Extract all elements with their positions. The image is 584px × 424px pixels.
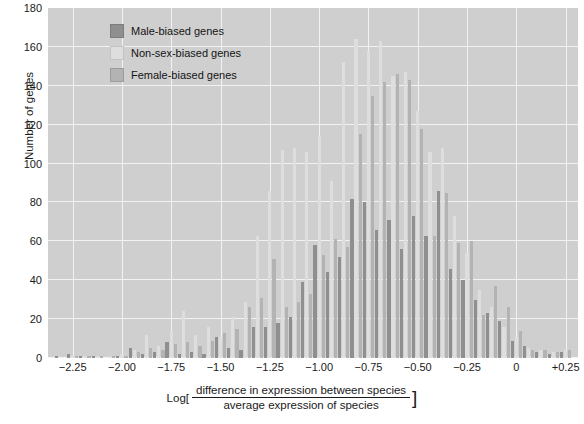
y-axis-tick-label: 80: [30, 197, 42, 208]
x-axis-title-denominator: average expression of species: [219, 398, 382, 411]
x-axis-title-suffix: ]: [412, 388, 417, 407]
bar: [202, 354, 205, 358]
bar: [239, 350, 242, 358]
bar: [543, 350, 546, 358]
bar: [457, 243, 460, 358]
bar: [252, 327, 255, 358]
bar: [297, 302, 300, 358]
bar: [165, 342, 168, 358]
bar: [149, 348, 152, 358]
bar: [129, 348, 132, 358]
bar: [289, 317, 292, 358]
bar: [83, 356, 86, 358]
bar: [461, 280, 464, 358]
bar: [276, 323, 279, 358]
bar: [465, 253, 468, 358]
bar: [379, 41, 382, 358]
bar: [511, 341, 514, 359]
bar: [474, 300, 477, 358]
x-axis-tick-label: −1.25: [256, 362, 284, 373]
plot-area: Male-biased genesNon-sex-biased genesFem…: [48, 8, 578, 358]
bar: [112, 356, 115, 358]
legend-item: Non-sex-biased genes: [110, 46, 241, 60]
bar: [227, 348, 230, 358]
bar: [182, 311, 185, 358]
bar: [391, 76, 394, 358]
y-axis-tick-label: 40: [30, 275, 42, 286]
bar: [502, 327, 505, 358]
x-axis-title-fraction: difference in expression between species…: [190, 384, 412, 411]
bar: [71, 356, 74, 358]
bar: [268, 191, 271, 358]
bar: [100, 356, 103, 358]
bar: [285, 307, 288, 358]
bar: [346, 247, 349, 358]
bar: [441, 148, 444, 358]
bar: [375, 230, 378, 358]
bar: [408, 80, 411, 358]
bar: [116, 356, 119, 358]
legend: Male-biased genesNon-sex-biased genesFem…: [110, 24, 241, 82]
bar: [161, 350, 164, 358]
legend-label: Female-biased genes: [131, 69, 237, 81]
legend-item: Male-biased genes: [110, 24, 241, 38]
bar: [494, 286, 497, 358]
bar: [416, 111, 419, 358]
bar: [359, 134, 362, 358]
bar: [153, 352, 156, 358]
bar: [527, 348, 530, 358]
bar: [326, 272, 329, 358]
bar: [133, 350, 136, 358]
bar: [55, 356, 58, 358]
bar: [309, 294, 312, 358]
bar: [330, 181, 333, 358]
bar: [400, 249, 403, 358]
bar: [539, 350, 542, 358]
bar: [92, 356, 95, 358]
bar: [272, 259, 275, 358]
bar: [198, 346, 201, 358]
bar: [264, 327, 267, 358]
bar: [75, 356, 78, 358]
x-axis-title: Log[ difference in expression between sp…: [0, 384, 584, 411]
bar: [560, 352, 563, 358]
bar: [482, 315, 485, 358]
bar: [301, 282, 304, 358]
bar: [367, 51, 370, 358]
y-axis-ticks: 020406080100120140160180: [0, 0, 48, 366]
x-axis-tick-label: +0.25: [552, 362, 580, 373]
bar: [313, 245, 316, 358]
bar: [145, 335, 148, 358]
x-axis-title-prefix: Log[: [167, 392, 190, 404]
bar: [248, 307, 251, 358]
x-axis-title-numerator: difference in expression between species: [192, 384, 410, 397]
y-axis-tick-label: 60: [30, 236, 42, 247]
bar: [507, 307, 510, 358]
bar: [281, 150, 284, 358]
legend-swatch-icon: [110, 46, 124, 60]
y-axis-tick-label: 100: [24, 158, 42, 169]
y-axis-tick-label: 20: [30, 314, 42, 325]
bar: [79, 356, 82, 358]
bar: [244, 302, 247, 358]
x-axis-tick-label: −1.75: [157, 362, 185, 373]
bar: [556, 352, 559, 358]
bar: [515, 337, 518, 358]
bar: [211, 341, 214, 359]
bar: [486, 313, 489, 358]
bar: [535, 352, 538, 358]
bar: [383, 82, 386, 358]
bar: [548, 354, 551, 358]
bar: [219, 337, 222, 358]
bar: [412, 216, 415, 358]
bar: [157, 346, 160, 358]
bar: [519, 331, 522, 358]
bar: [293, 148, 296, 358]
x-axis-tick-label: −0.75: [355, 362, 383, 373]
bar: [350, 199, 353, 358]
bar: [396, 74, 399, 358]
x-axis-tick-label: −0.25: [453, 362, 481, 373]
bar: [223, 333, 226, 358]
bar: [260, 298, 263, 358]
bar: [478, 290, 481, 358]
